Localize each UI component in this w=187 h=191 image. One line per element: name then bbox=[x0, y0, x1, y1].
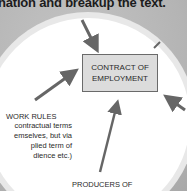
work-desc-line: plied term of bbox=[6, 141, 72, 151]
work-rules-description: contractual terms emselves, but via plie… bbox=[6, 121, 72, 161]
work-desc-line: emselves, but via bbox=[6, 131, 72, 141]
producers-label: PRODUCERS OF bbox=[72, 180, 132, 190]
box-line-2: EMPLOYMENT bbox=[92, 73, 148, 84]
arrows bbox=[0, 0, 187, 191]
box-line-1: CONTRACT OF bbox=[91, 62, 149, 73]
work-desc-line: contractual terms bbox=[6, 121, 72, 131]
arrow-producers bbox=[100, 104, 117, 172]
contract-of-employment-box: CONTRACT OF EMPLOYMENT bbox=[82, 54, 158, 92]
arrow-top-right bbox=[154, 42, 160, 48]
work-desc-line: dience etc.) bbox=[6, 151, 72, 161]
arrow-top bbox=[82, 20, 96, 48]
arrow-work-rules bbox=[35, 72, 74, 100]
arrow-right bbox=[168, 98, 185, 110]
